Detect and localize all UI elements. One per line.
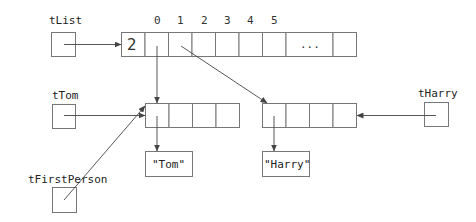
tlist-label: tList (49, 14, 82, 27)
tom-field-1 (169, 104, 193, 128)
tharry-variable-box (425, 103, 449, 127)
list-cell-5 (263, 33, 287, 57)
tharry-label: tHarry (418, 87, 458, 100)
list-ellipsis: ... (300, 38, 320, 51)
reference-diagram: tList 0 1 2 3 4 5 2 ... tTom tHarry (0, 0, 476, 222)
list-cell-last (333, 33, 357, 57)
tom-string-value: "Tom" (152, 158, 185, 171)
index-3: 3 (224, 14, 231, 27)
list-cell-1 (169, 33, 193, 57)
list-cell-4 (239, 33, 263, 57)
index-5: 5 (271, 14, 278, 27)
tfirstperson-label: tFirstPerson (28, 173, 107, 186)
ttom-variable-box (53, 105, 76, 129)
harry-field-2 (310, 104, 334, 128)
harry-field-3 (333, 104, 357, 128)
tom-object (146, 104, 240, 128)
index-0: 0 (154, 14, 161, 27)
harry-string-value: "Harry" (264, 158, 310, 171)
index-2: 2 (201, 14, 208, 27)
list-count-value: 2 (127, 36, 137, 54)
tom-field-2 (193, 104, 217, 128)
list-cell-3 (216, 33, 240, 57)
list-cell-2 (192, 33, 216, 57)
harry-object (263, 104, 357, 128)
index-1: 1 (177, 14, 184, 27)
ttom-label: tTom (52, 89, 79, 102)
index-4: 4 (247, 14, 254, 27)
harry-field-1 (286, 104, 310, 128)
tom-field-3 (216, 104, 240, 128)
